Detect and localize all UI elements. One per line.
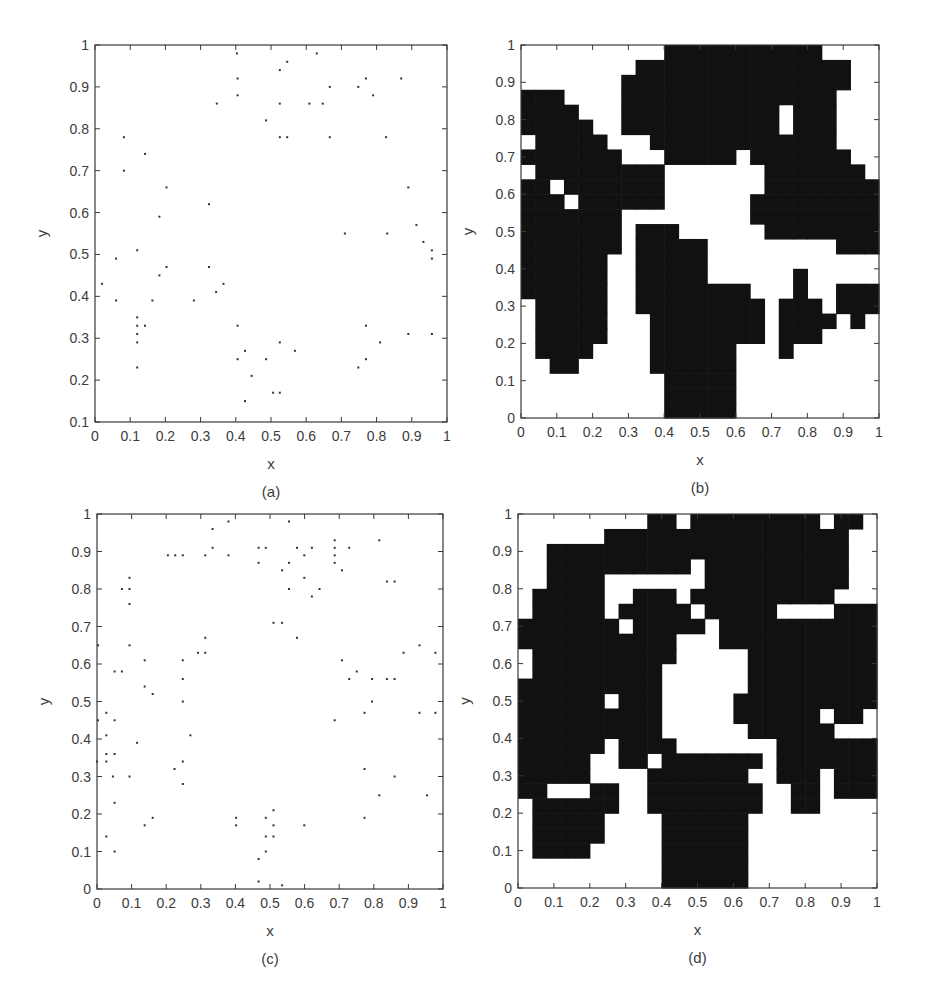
x-axis: 00.10.20.30.40.50.60.70.80.91 — [93, 514, 447, 911]
data-point — [237, 94, 239, 96]
y-axis-label: y — [35, 697, 52, 705]
x-axis-label: x — [694, 921, 702, 938]
data-point — [258, 858, 260, 860]
data-point — [364, 817, 366, 819]
data-point — [279, 136, 281, 138]
data-point — [434, 712, 436, 714]
y-axis: 00.10.20.30.40.50.60.70.80.91 — [72, 506, 443, 897]
data-point — [407, 186, 409, 188]
x-tick-label: 0.1 — [120, 428, 140, 444]
data-point — [308, 103, 310, 105]
data-point — [296, 547, 298, 549]
data-point — [258, 547, 260, 549]
y-axis-label: y — [33, 229, 50, 237]
x-tick-label: 0.4 — [226, 895, 246, 911]
x-tick-label: 0.9 — [831, 894, 851, 910]
data-point — [208, 266, 210, 268]
x-tick-label: 0.4 — [654, 424, 674, 440]
y-tick-label: 1 — [83, 506, 91, 522]
data-point — [403, 652, 405, 654]
x-axis-label: x — [267, 455, 275, 472]
data-point — [228, 554, 230, 556]
data-point — [316, 52, 318, 54]
data-point — [129, 644, 131, 646]
data-point — [303, 824, 305, 826]
data-point — [419, 712, 421, 714]
data-point — [265, 851, 267, 853]
data-point — [265, 358, 267, 360]
x-tick-label: 0.7 — [332, 428, 352, 444]
data-point — [152, 817, 154, 819]
scatter-points — [101, 52, 433, 402]
data-point — [378, 539, 380, 541]
data-point — [244, 400, 246, 402]
data-point — [281, 884, 283, 886]
data-point — [121, 588, 123, 590]
plot-frame — [95, 45, 447, 422]
y-tick-label: 1 — [507, 37, 515, 53]
data-point — [114, 753, 116, 755]
x-tick-label: 0.5 — [261, 428, 281, 444]
data-point — [273, 809, 275, 811]
data-point — [279, 69, 281, 71]
data-point — [303, 577, 305, 579]
data-point — [407, 333, 409, 335]
data-point — [334, 547, 336, 549]
data-point — [286, 136, 288, 138]
y-tick-label: 0.5 — [70, 246, 90, 262]
data-point — [273, 824, 275, 826]
y-tick-label: 0.8 — [493, 581, 513, 597]
data-point — [216, 103, 218, 105]
data-point — [174, 768, 176, 770]
data-point — [386, 678, 388, 680]
data-point — [182, 783, 184, 785]
y-tick-label: 0.2 — [496, 335, 516, 351]
data-point — [144, 686, 146, 688]
y-tick-label: 0.9 — [72, 544, 92, 560]
data-point — [144, 659, 146, 661]
y-tick-label: 0.2 — [70, 372, 90, 388]
data-point — [434, 652, 436, 654]
x-tick-label: 0.8 — [798, 424, 818, 440]
data-point — [244, 350, 246, 352]
data-point — [204, 554, 206, 556]
data-point — [286, 61, 288, 63]
data-point — [204, 652, 206, 654]
y-tick-label: 0.4 — [493, 730, 513, 746]
data-point — [329, 136, 331, 138]
x-tick-label: 0.9 — [399, 895, 419, 911]
y-tick-label: 0.9 — [70, 79, 90, 95]
x-tick-label: 0.3 — [191, 428, 211, 444]
data-point — [265, 817, 267, 819]
data-point — [237, 358, 239, 360]
y-tick-label: 0.3 — [493, 768, 513, 784]
data-point — [112, 776, 114, 778]
x-tick-label: 0.2 — [580, 894, 600, 910]
x-tick-label: 0.6 — [724, 894, 744, 910]
x-tick-label: 0 — [93, 895, 101, 911]
data-point — [364, 712, 366, 714]
x-tick-label: 0.7 — [760, 894, 780, 910]
data-point — [394, 776, 396, 778]
data-point — [288, 588, 290, 590]
x-tick-label: 0.6 — [296, 428, 316, 444]
data-point — [237, 78, 239, 80]
data-point — [136, 367, 138, 369]
x-tick-label: 0.1 — [547, 424, 567, 440]
y-tick-label: 0.8 — [496, 112, 516, 128]
data-point — [129, 588, 131, 590]
data-point — [152, 693, 154, 695]
data-point — [379, 341, 381, 343]
data-point — [136, 316, 138, 318]
data-point — [357, 86, 359, 88]
y-tick-label: 0.1 — [70, 414, 90, 430]
x-tick-label: 0 — [514, 894, 522, 910]
data-point — [394, 678, 396, 680]
y-tick-label: 0 — [83, 881, 91, 897]
data-point — [105, 761, 107, 763]
x-tick-label: 0 — [91, 428, 99, 444]
x-tick-label: 0.7 — [762, 424, 782, 440]
data-point — [144, 153, 146, 155]
data-point — [303, 554, 305, 556]
data-point — [166, 186, 168, 188]
